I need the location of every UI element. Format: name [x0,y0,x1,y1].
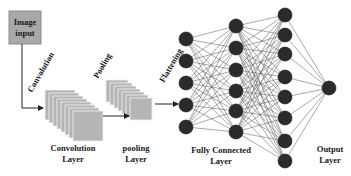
neuron-node [179,120,193,134]
edge [236,15,285,111]
pool-layer-label-line1: pooling [123,143,151,153]
neuron-node [278,8,292,22]
fc-layer-label-line2: Layer [210,156,232,166]
input-label-line1: Image [14,17,37,27]
neuron-node [278,28,292,42]
neuron-node [278,70,292,84]
network-nodes [179,8,336,168]
image-input-box: Image input [9,11,41,44]
neuron-node [229,41,243,55]
neuron-node [278,90,292,104]
neuron-node [179,76,193,90]
pooling-feature-maps [106,80,152,120]
neuron-node [179,54,193,68]
edge [285,54,329,88]
neuron-node [278,154,292,168]
feature-map [73,111,103,141]
input-label-line2: input [15,28,35,38]
pool-layer-label-line2: Layer [125,154,147,164]
convolution-feature-maps [45,90,103,141]
edge [186,26,236,83]
neuron-node [278,134,292,148]
edge [186,48,236,127]
convolution-stage-label: Convolution [25,50,56,94]
feature-map [130,98,152,120]
neuron-node [278,111,292,125]
neuron-node [179,32,193,46]
neuron-node [278,47,292,61]
neuron-node [229,63,243,77]
neuron-node [229,125,243,139]
neuron-node [229,84,243,98]
pooling-stage-label: Pooling [91,51,114,80]
edge [186,26,236,39]
conv-layer-label-line1: Convolution [51,143,96,153]
edge [236,15,285,26]
network-edges [186,15,329,161]
neuron-node [322,81,336,95]
edge [186,26,236,127]
edge [186,105,236,111]
output-layer-label-line2: Layer [319,155,341,165]
fc-layer-label-line1: Fully Connected [191,145,251,155]
conv-layer-label-line2: Layer [62,154,84,164]
output-layer-label-line1: Output [317,144,344,154]
edge [236,70,285,141]
neuron-node [179,98,193,112]
neuron-node [229,104,243,118]
neuron-node [229,19,243,33]
cnn-diagram: Image input Convolution Pooling Flatteni… [0,0,351,176]
